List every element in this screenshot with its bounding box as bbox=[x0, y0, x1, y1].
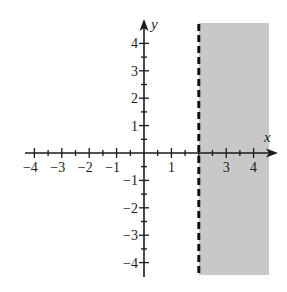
coordinate-plane: −4−3−2−11344321−1−2−3−4 x y bbox=[0, 0, 287, 292]
y-axis-label: y bbox=[149, 16, 158, 32]
y-tick-label: −1 bbox=[123, 173, 138, 188]
y-tick-label: −2 bbox=[123, 201, 138, 216]
x-tick-label: 1 bbox=[168, 160, 175, 175]
y-tick-label: −4 bbox=[123, 256, 138, 271]
x-tick-label: 4 bbox=[250, 160, 257, 175]
x-tick-label: −4 bbox=[23, 160, 38, 175]
shaded-region bbox=[199, 23, 269, 275]
y-tick-label: 4 bbox=[131, 36, 138, 51]
x-tick-label: 3 bbox=[223, 160, 230, 175]
y-tick-label: 1 bbox=[131, 119, 138, 134]
x-tick-label: −3 bbox=[50, 160, 65, 175]
y-tick-label: 3 bbox=[131, 64, 138, 79]
x-tick-label: −1 bbox=[105, 160, 120, 175]
y-tick-label: 2 bbox=[131, 91, 138, 106]
shaded-area bbox=[199, 23, 269, 275]
y-tick-label: −3 bbox=[123, 228, 138, 243]
x-tick-label: −2 bbox=[78, 160, 93, 175]
x-axis-label: x bbox=[263, 129, 271, 145]
